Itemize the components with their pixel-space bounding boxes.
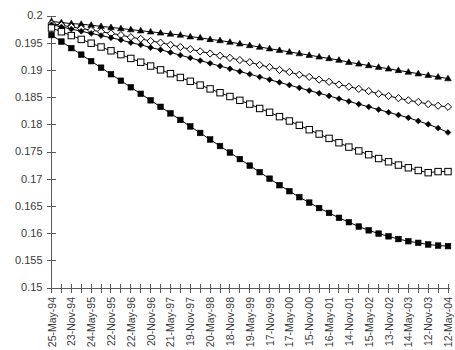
data-point-marker xyxy=(366,228,372,234)
data-point-marker xyxy=(395,162,401,168)
data-point-marker xyxy=(108,35,114,41)
y-tick-label: 0.175 xyxy=(15,145,43,157)
data-point-marker xyxy=(247,71,253,77)
data-point-marker xyxy=(217,90,223,96)
data-point-marker xyxy=(435,168,441,174)
data-point-marker xyxy=(128,40,134,46)
data-point-marker xyxy=(346,99,352,105)
data-point-marker xyxy=(157,67,163,73)
data-point-marker xyxy=(415,118,421,124)
data-point-marker xyxy=(286,118,292,124)
data-point-marker xyxy=(158,47,164,53)
data-point-marker xyxy=(78,36,84,42)
data-point-marker xyxy=(444,103,451,110)
x-tick-label: 14-Nov-01 xyxy=(343,297,355,346)
x-tick-label: 19-May-99 xyxy=(244,297,256,347)
data-point-marker xyxy=(266,109,272,115)
data-point-marker xyxy=(197,130,203,136)
data-point-marker xyxy=(237,156,243,162)
data-point-marker xyxy=(48,25,54,31)
series-open-diamond xyxy=(48,20,452,110)
x-tick-label: 20-Nov-96 xyxy=(145,297,157,346)
data-point-marker xyxy=(296,71,303,78)
data-point-marker xyxy=(78,52,84,58)
data-series-group xyxy=(48,18,452,249)
data-point-marker xyxy=(138,59,144,65)
data-point-marker xyxy=(108,48,114,54)
data-point-marker xyxy=(445,130,451,136)
data-point-marker xyxy=(216,52,223,59)
data-point-marker xyxy=(375,155,381,161)
data-point-marker xyxy=(336,215,342,221)
data-point-marker xyxy=(435,125,441,131)
x-tick-label: 25-May-94 xyxy=(46,297,58,347)
data-point-marker xyxy=(287,82,293,88)
y-tick-label: 0.155 xyxy=(15,254,43,266)
data-point-marker xyxy=(316,131,322,137)
data-point-marker xyxy=(396,112,402,118)
data-point-marker xyxy=(207,50,214,57)
data-point-marker xyxy=(158,104,164,110)
data-point-marker xyxy=(425,121,431,127)
data-point-marker xyxy=(168,111,174,117)
data-point-marker xyxy=(197,82,203,88)
data-point-marker xyxy=(335,81,342,88)
data-point-marker xyxy=(306,88,312,94)
data-point-marker xyxy=(277,182,283,188)
series-filled-diamond xyxy=(49,22,451,136)
data-point-marker xyxy=(385,92,392,99)
data-point-marker xyxy=(118,51,124,57)
data-point-marker xyxy=(247,163,253,169)
data-point-marker xyxy=(376,231,382,237)
data-point-marker xyxy=(246,59,253,66)
data-point-marker xyxy=(118,78,124,84)
data-point-marker xyxy=(266,64,273,71)
x-tick-label: 23-Nov-94 xyxy=(65,297,77,346)
data-point-marker xyxy=(445,168,451,174)
data-point-marker xyxy=(326,93,332,99)
data-point-marker xyxy=(316,90,322,96)
data-point-marker xyxy=(178,117,184,123)
data-point-marker xyxy=(276,113,282,119)
data-point-marker xyxy=(148,98,154,104)
data-point-marker xyxy=(415,98,422,105)
x-tick-label: 19-Nov-97 xyxy=(184,297,196,346)
data-point-marker xyxy=(207,60,213,66)
x-tick-label: 18-Nov-98 xyxy=(224,297,236,346)
data-point-marker xyxy=(69,45,75,51)
data-point-marker xyxy=(187,46,194,53)
line-chart: 0.150.1550.160.1650.170.1750.180.1850.19… xyxy=(0,0,455,350)
data-point-marker xyxy=(167,41,174,48)
data-point-marker xyxy=(256,61,263,68)
data-point-marker xyxy=(415,240,421,246)
x-axis: 25-May-9423-Nov-9424-May-9522-Nov-9522-M… xyxy=(46,284,455,348)
data-point-marker xyxy=(227,66,233,72)
data-point-marker xyxy=(345,83,352,90)
data-point-marker xyxy=(247,101,253,107)
data-point-marker xyxy=(386,234,392,240)
data-point-marker xyxy=(257,74,263,80)
x-tick-label: 15-May-02 xyxy=(363,297,375,347)
data-point-marker xyxy=(58,29,64,35)
data-point-marker xyxy=(167,70,173,76)
data-point-marker xyxy=(445,243,451,249)
y-tick-label: 0.17 xyxy=(21,173,42,185)
data-point-marker xyxy=(147,37,154,44)
data-point-marker xyxy=(405,115,411,121)
data-point-marker xyxy=(128,55,134,61)
data-point-marker xyxy=(237,69,243,75)
data-point-marker xyxy=(286,68,293,75)
data-point-marker xyxy=(157,39,164,46)
data-point-marker xyxy=(108,71,114,77)
data-point-marker xyxy=(415,167,421,173)
data-point-marker xyxy=(375,90,382,97)
data-point-marker xyxy=(68,32,74,38)
data-point-marker xyxy=(425,242,431,248)
x-tick-label: 24-May-95 xyxy=(85,297,97,347)
data-point-marker xyxy=(386,109,392,115)
data-point-marker xyxy=(355,85,362,92)
data-point-marker xyxy=(118,37,124,43)
x-tick-label: 22-May-96 xyxy=(125,297,137,347)
data-point-marker xyxy=(425,101,432,108)
data-point-marker xyxy=(197,48,204,55)
